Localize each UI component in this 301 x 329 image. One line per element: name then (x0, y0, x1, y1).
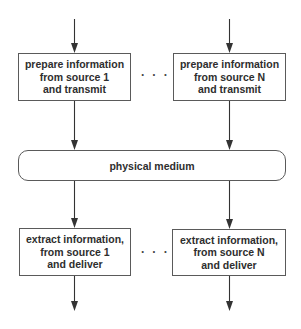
box-text-line: and deliver (47, 258, 102, 271)
box-text-line: and transmit (198, 83, 261, 96)
box-text-line: from source 1 (40, 246, 109, 259)
physical-medium-label: physical medium (109, 160, 194, 172)
receiver-box-source-n: extract information, from source N and d… (172, 229, 286, 276)
physical-medium-block: physical medium (18, 150, 286, 181)
transmitter-ellipsis: · · · (141, 70, 170, 80)
box-text-line: prepare information (25, 58, 124, 71)
box-text-line: and transmit (43, 83, 106, 96)
transmitter-box-source-1: prepare information from source 1 and tr… (18, 53, 131, 101)
arrow-input-1 (71, 19, 78, 53)
arrow-output-n (226, 276, 233, 311)
box-text-line: from source 1 (40, 71, 109, 84)
box-text-line: and deliver (201, 259, 256, 272)
arrow-output-1 (71, 276, 78, 311)
arrow-tx1-to-medium (71, 100, 78, 150)
box-text-line: extract information, (180, 234, 278, 247)
arrow-medium-to-rxn (226, 181, 233, 229)
box-text-line: extract information, (26, 233, 124, 246)
diagram-canvas: prepare information from source 1 and tr… (0, 0, 301, 329)
box-text-line: from source N (193, 246, 264, 259)
arrow-medium-to-rx1 (71, 181, 78, 228)
receiver-box-source-1: extract information, from source 1 and d… (19, 228, 131, 276)
box-text-line: prepare information (180, 58, 279, 71)
arrow-input-n (226, 19, 233, 53)
arrow-txn-to-medium (226, 101, 233, 150)
receiver-ellipsis: · · · (141, 247, 170, 257)
box-text-line: from source N (194, 71, 265, 84)
transmitter-box-source-n: prepare information from source N and tr… (173, 53, 286, 101)
